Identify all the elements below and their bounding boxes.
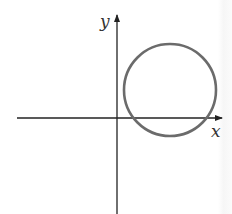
coordinate-diagram: y x — [0, 0, 232, 214]
x-axis-label: x — [211, 121, 221, 141]
circle-curve — [124, 44, 216, 136]
y-axis-label: y — [99, 11, 110, 31]
